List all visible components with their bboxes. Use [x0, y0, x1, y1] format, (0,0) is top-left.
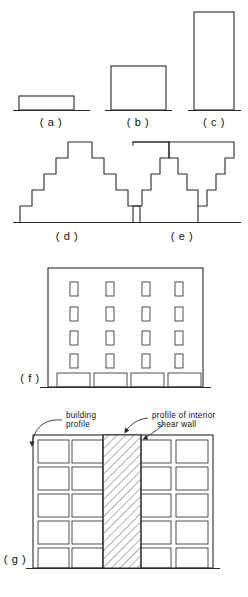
panel-b: ( b )	[105, 66, 172, 128]
window-f	[142, 331, 150, 345]
frame-cell-g	[176, 467, 208, 490]
figure-canvas: ( a ) ( b ) ( c ) ( d ) ( e )	[0, 0, 248, 597]
frame-cell-g	[72, 467, 103, 490]
profile-d-stepped-pyramid	[20, 142, 140, 222]
window-f	[142, 307, 150, 321]
window-f	[142, 282, 150, 296]
building-profiles-figure: ( a ) ( b ) ( c ) ( d ) ( e )	[0, 0, 248, 597]
window-f	[106, 282, 114, 296]
window-f	[175, 282, 183, 296]
panel-e: ( e )	[126, 142, 241, 242]
caption-c: ( c )	[203, 116, 225, 128]
building-f-outline	[48, 268, 203, 387]
interior-shear-wall-g	[103, 435, 141, 568]
frame-cell-g	[140, 440, 171, 463]
frame-cell-g	[176, 440, 208, 463]
label-building-profile-line2: profile	[66, 420, 90, 429]
frame-cell-g	[38, 467, 69, 490]
caption-d: ( d )	[56, 230, 79, 242]
arrowhead-building-profile	[29, 442, 34, 448]
window-grid-f	[70, 282, 183, 368]
frame-cell-g	[38, 494, 69, 517]
ground-bay-f	[168, 373, 201, 387]
window-f	[175, 354, 183, 368]
window-f	[106, 354, 114, 368]
label-building-profile-line1: building	[66, 411, 96, 420]
caption-g: ( g )	[4, 553, 27, 565]
window-f	[142, 354, 150, 368]
label-shear-wall-line1: profile of interior	[152, 411, 215, 420]
ground-bay-f	[131, 373, 164, 387]
frame-cell-g	[72, 548, 103, 568]
profile-e-outline-main	[133, 142, 234, 222]
panel-a: ( a )	[13, 96, 90, 128]
frame-cell-g	[140, 521, 171, 544]
frame-cell-g	[176, 494, 208, 517]
ground-bays-f	[57, 373, 201, 387]
frame-cell-g	[72, 440, 103, 463]
ground-bay-f	[57, 373, 90, 387]
frame-cell-g	[38, 548, 69, 568]
frame-cell-g	[38, 521, 69, 544]
frame-cell-g	[72, 521, 103, 544]
window-f	[106, 307, 114, 321]
window-f	[175, 331, 183, 345]
profile-e-inner-notch	[169, 142, 198, 206]
caption-e: ( e )	[171, 230, 194, 242]
frame-cell-g	[72, 494, 103, 517]
panel-g: building profile profile of interior she…	[4, 411, 220, 569]
caption-b: ( b )	[127, 116, 150, 128]
window-f	[175, 307, 183, 321]
caption-a: ( a )	[40, 116, 63, 128]
profile-c-rectangle	[194, 12, 234, 110]
window-f	[70, 331, 78, 345]
label-shear-wall-line2: shear wall	[157, 420, 196, 429]
panel-f: ( f )	[20, 268, 211, 388]
frame-cell-g	[176, 521, 208, 544]
profile-e-inverted-stepped	[133, 142, 169, 222]
frame-cell-g	[140, 548, 171, 568]
frame-cell-g	[140, 494, 171, 517]
window-f	[70, 354, 78, 368]
window-f	[70, 282, 78, 296]
leader-shear-wall-left	[126, 418, 148, 431]
frame-cell-g	[38, 440, 69, 463]
frame-cell-g	[140, 467, 171, 490]
arrowhead-shear-wall-left	[124, 428, 129, 434]
profile-a-rectangle	[19, 96, 74, 110]
frame-cell-g	[176, 548, 208, 568]
caption-f: ( f )	[20, 372, 40, 384]
ground-bay-f	[94, 373, 127, 387]
profile-b-rectangle	[111, 66, 166, 110]
panel-c: ( c )	[188, 12, 241, 128]
window-f	[70, 307, 78, 321]
panel-d: ( d )	[13, 142, 147, 242]
window-f	[106, 331, 114, 345]
